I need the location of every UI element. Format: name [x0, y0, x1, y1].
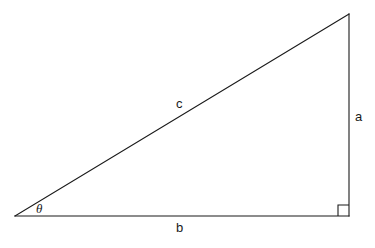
hypotenuse-line: [15, 14, 349, 216]
label-side-a: a: [355, 110, 362, 123]
label-side-b: b: [176, 221, 183, 234]
label-angle-theta: θ: [36, 202, 42, 215]
label-side-c: c: [176, 97, 183, 110]
diagram-canvas: a b c θ: [0, 0, 375, 248]
triangle-figure: [0, 0, 375, 248]
right-angle-marker-icon: [338, 205, 349, 216]
